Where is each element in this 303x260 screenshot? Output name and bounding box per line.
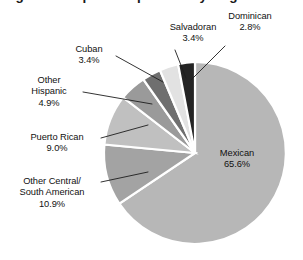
label-salvadoran-name: Salvadoran [160,22,226,33]
label-puerto-rican: Puerto Rican 9.0% [18,132,96,155]
label-cuban-percent: 3.4% [66,55,112,66]
label-other-central-name-line1: Other Central/ [6,176,98,187]
label-other-hispanic-percent: 4.9% [18,98,80,109]
label-mexican-name: Mexican [206,148,268,159]
label-other-central-percent: 10.9% [6,199,98,210]
label-puerto-rican-percent: 9.0% [18,143,96,154]
label-dominican: Dominican 2.8% [218,11,282,34]
label-dominican-name: Dominican [218,11,282,22]
label-puerto-rican-name: Puerto Rican [18,132,96,143]
label-mexican-percent: 65.6% [206,159,268,170]
label-other-central-south-american: Other Central/ South American 10.9% [6,176,98,210]
label-salvadoran: Salvadoran 3.4% [160,22,226,45]
leader-line-cuban [116,56,163,82]
label-other-hispanic-name-line2: Hispanic [18,86,80,97]
pie-chart-canvas [0,0,303,260]
label-dominican-percent: 2.8% [218,22,282,33]
label-other-hispanic-name-line1: Other [18,75,80,86]
label-cuban: Cuban 3.4% [66,44,112,67]
label-mexican: Mexican 65.6% [206,148,268,171]
pie-chart-figure: Figure 1. Hispanic Population by Origin [0,0,303,260]
label-salvadoran-percent: 3.4% [160,33,226,44]
label-other-hispanic: Other Hispanic 4.9% [18,75,80,109]
label-other-central-name-line2: South American [6,187,98,198]
label-cuban-name: Cuban [66,44,112,55]
